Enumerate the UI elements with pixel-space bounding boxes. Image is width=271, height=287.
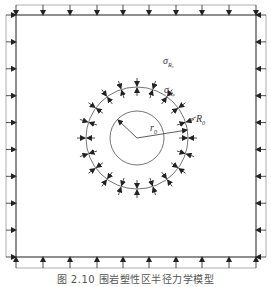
external-load-lines (6, 5, 266, 268)
sigma-rp-label: σRₚ (164, 84, 176, 97)
sigma-r0-label: σR₀ (163, 55, 174, 68)
outer-radius-line (137, 130, 187, 138)
r0-label: r0 (150, 122, 157, 135)
mechanical-model-diagram: σR₀ σRₚ R0 r0 (0, 0, 271, 287)
rock-mass-boundary (16, 15, 256, 257)
R0-label: R0 (195, 113, 205, 126)
inner-radius-line (118, 120, 137, 138)
external-load-arrows (6, 5, 266, 268)
figure-caption: 图 2.10 围岩塑性区半径力学模型 (0, 271, 271, 286)
